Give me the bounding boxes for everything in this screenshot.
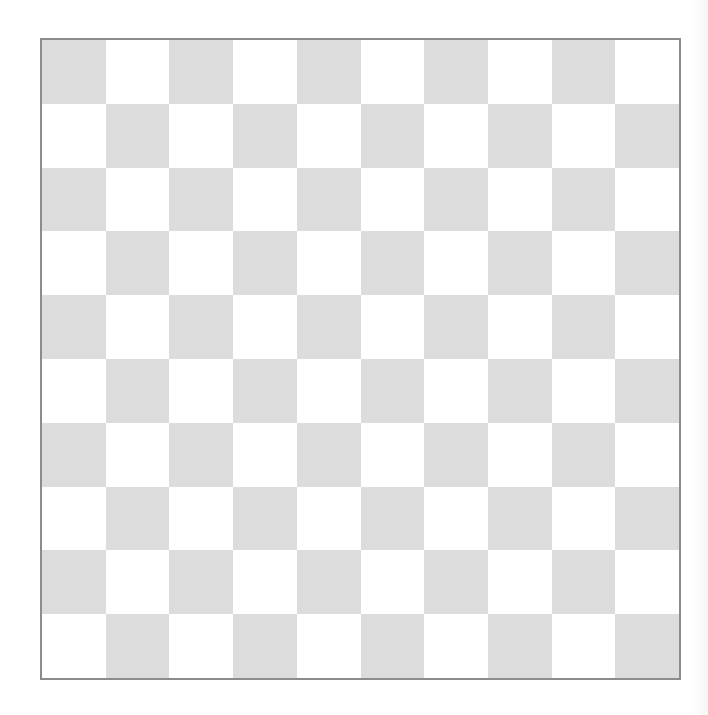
board-square-dark[interactable] [297, 168, 361, 232]
board-square-light[interactable] [361, 168, 425, 232]
board-square-light[interactable] [169, 104, 233, 168]
board-square-dark[interactable] [106, 231, 170, 295]
board-square-dark[interactable] [169, 550, 233, 614]
board-square-light[interactable] [297, 359, 361, 423]
board-square-light[interactable] [552, 614, 616, 678]
board-square-dark[interactable] [233, 104, 297, 168]
board-square-light[interactable] [233, 423, 297, 487]
board-square-dark[interactable] [615, 104, 679, 168]
board-square-dark[interactable] [552, 168, 616, 232]
board-square-dark[interactable] [552, 40, 616, 104]
board-square-dark[interactable] [42, 295, 106, 359]
board-square-light[interactable] [424, 359, 488, 423]
board-square-light[interactable] [552, 487, 616, 551]
board-square-light[interactable] [552, 359, 616, 423]
board-square-dark[interactable] [297, 40, 361, 104]
board-square-light[interactable] [106, 295, 170, 359]
board-square-light[interactable] [361, 550, 425, 614]
board-square-light[interactable] [361, 40, 425, 104]
board-square-dark[interactable] [361, 231, 425, 295]
board-square-light[interactable] [488, 40, 552, 104]
board-square-dark[interactable] [615, 231, 679, 295]
board-square-dark[interactable] [233, 231, 297, 295]
board-square-dark[interactable] [42, 168, 106, 232]
board-square-dark[interactable] [424, 423, 488, 487]
board-square-light[interactable] [233, 550, 297, 614]
board-square-light[interactable] [169, 231, 233, 295]
board-square-dark[interactable] [552, 295, 616, 359]
board-square-light[interactable] [552, 104, 616, 168]
board-square-light[interactable] [552, 231, 616, 295]
board-square-dark[interactable] [106, 487, 170, 551]
board-square-light[interactable] [169, 614, 233, 678]
board-square-dark[interactable] [488, 359, 552, 423]
board-square-light[interactable] [424, 614, 488, 678]
board-square-dark[interactable] [615, 487, 679, 551]
board-square-light[interactable] [615, 423, 679, 487]
board-square-light[interactable] [169, 487, 233, 551]
board-square-dark[interactable] [424, 295, 488, 359]
board-square-light[interactable] [361, 295, 425, 359]
board-square-light[interactable] [297, 614, 361, 678]
board-square-light[interactable] [297, 487, 361, 551]
board-square-light[interactable] [106, 550, 170, 614]
board-square-light[interactable] [42, 231, 106, 295]
board-square-light[interactable] [42, 487, 106, 551]
board-square-dark[interactable] [169, 168, 233, 232]
board-square-light[interactable] [42, 359, 106, 423]
board-square-dark[interactable] [361, 104, 425, 168]
board-square-dark[interactable] [552, 423, 616, 487]
board-square-dark[interactable] [361, 487, 425, 551]
board-square-dark[interactable] [233, 487, 297, 551]
board-square-light[interactable] [233, 168, 297, 232]
board-square-light[interactable] [615, 168, 679, 232]
board-square-dark[interactable] [361, 614, 425, 678]
board-square-dark[interactable] [169, 295, 233, 359]
board-square-dark[interactable] [169, 40, 233, 104]
board-square-light[interactable] [297, 231, 361, 295]
board-square-dark[interactable] [42, 550, 106, 614]
board-square-light[interactable] [233, 295, 297, 359]
board-square-dark[interactable] [488, 104, 552, 168]
board-square-light[interactable] [169, 359, 233, 423]
board-square-light[interactable] [488, 423, 552, 487]
board-square-light[interactable] [615, 40, 679, 104]
board-square-dark[interactable] [297, 295, 361, 359]
board-square-light[interactable] [424, 231, 488, 295]
board-square-light[interactable] [488, 168, 552, 232]
board-square-light[interactable] [106, 423, 170, 487]
board-square-dark[interactable] [233, 359, 297, 423]
board-square-dark[interactable] [424, 168, 488, 232]
game-board[interactable] [40, 38, 681, 680]
board-square-light[interactable] [361, 423, 425, 487]
board-square-dark[interactable] [106, 104, 170, 168]
board-square-dark[interactable] [615, 359, 679, 423]
board-square-dark[interactable] [297, 423, 361, 487]
board-square-light[interactable] [297, 104, 361, 168]
board-square-dark[interactable] [42, 40, 106, 104]
board-square-light[interactable] [424, 487, 488, 551]
board-square-dark[interactable] [488, 614, 552, 678]
board-square-light[interactable] [42, 104, 106, 168]
board-square-light[interactable] [488, 550, 552, 614]
board-square-dark[interactable] [42, 423, 106, 487]
board-square-dark[interactable] [615, 614, 679, 678]
board-square-dark[interactable] [552, 550, 616, 614]
board-square-dark[interactable] [169, 423, 233, 487]
board-square-dark[interactable] [424, 550, 488, 614]
board-square-light[interactable] [106, 40, 170, 104]
board-square-light[interactable] [615, 295, 679, 359]
board-square-light[interactable] [424, 104, 488, 168]
board-square-light[interactable] [233, 40, 297, 104]
board-square-dark[interactable] [233, 614, 297, 678]
board-square-light[interactable] [42, 614, 106, 678]
board-square-dark[interactable] [106, 359, 170, 423]
board-square-dark[interactable] [488, 487, 552, 551]
board-square-dark[interactable] [424, 40, 488, 104]
board-square-light[interactable] [615, 550, 679, 614]
board-square-dark[interactable] [106, 614, 170, 678]
board-square-dark[interactable] [488, 231, 552, 295]
board-square-light[interactable] [488, 295, 552, 359]
board-square-dark[interactable] [361, 359, 425, 423]
board-square-dark[interactable] [297, 550, 361, 614]
